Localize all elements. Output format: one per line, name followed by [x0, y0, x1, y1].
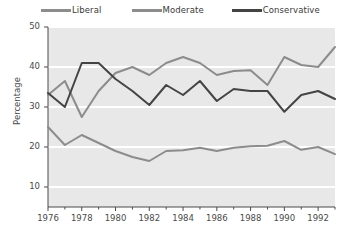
x-tick-label: 1986	[200, 214, 234, 223]
chart-canvas	[0, 0, 344, 239]
x-tick-label: 1988	[234, 214, 268, 223]
x-tick-label: 1990	[267, 214, 301, 223]
chart-root: Liberal Moderate Conservative Percentage…	[0, 0, 344, 239]
y-tick-label: 30	[18, 102, 40, 111]
y-tick-label: 50	[18, 22, 40, 31]
x-tick-label: 1992	[301, 214, 335, 223]
y-tick-label: 40	[18, 62, 40, 71]
x-tick-label: 1976	[31, 214, 65, 223]
y-tick-label: 10	[18, 182, 40, 191]
y-tick-label: 20	[18, 142, 40, 151]
plot-background	[48, 27, 335, 207]
x-tick-label: 1980	[99, 214, 133, 223]
x-tick-label: 1978	[65, 214, 99, 223]
x-tick-label: 1984	[166, 214, 200, 223]
x-tick-label: 1982	[132, 214, 166, 223]
plot-area: Percentage 1020304050 197619781980198219…	[0, 0, 344, 239]
